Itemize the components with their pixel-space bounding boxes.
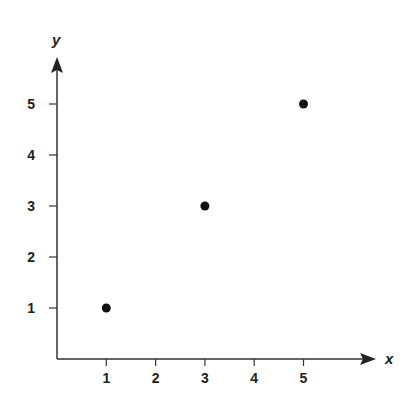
x-axis-label: x [384,350,394,367]
data-point [200,202,209,211]
axes [51,57,376,365]
y-tick-label: 5 [27,96,35,112]
x-tick-label: 5 [300,370,308,386]
x-tick-label: 1 [102,370,110,386]
y-tick-label: 1 [27,300,35,316]
y-tick-label: 2 [27,249,35,265]
data-points [102,100,308,313]
scatter-chart: 12345 12345 x y [0,0,414,402]
data-point [299,100,308,109]
y-tick-label: 4 [27,147,35,163]
x-ticks: 12345 [102,359,307,386]
x-tick-label: 3 [201,370,209,386]
x-tick-label: 4 [250,370,258,386]
y-ticks: 12345 [27,96,57,316]
y-tick-label: 3 [27,198,35,214]
y-axis-label: y [51,31,61,48]
x-tick-label: 2 [152,370,160,386]
data-point [102,304,111,313]
